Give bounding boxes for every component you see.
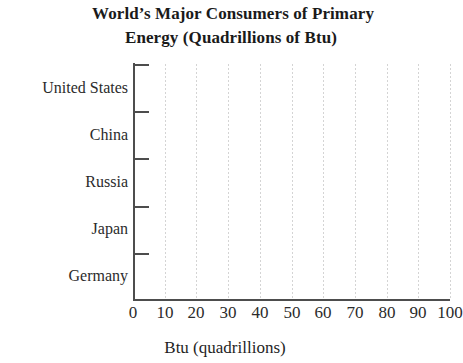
y-axis-label-united-states: United States	[42, 79, 128, 97]
gridline	[418, 64, 419, 300]
x-axis-tick-label-70: 70	[347, 303, 364, 323]
x-axis-tick-label-50: 50	[284, 303, 301, 323]
y-axis-tick	[133, 111, 149, 113]
y-axis-tick	[133, 206, 149, 208]
x-axis-tick-label-10: 10	[157, 303, 174, 323]
gridline	[260, 64, 261, 300]
y-axis-tick	[133, 253, 149, 255]
gridline	[228, 64, 229, 300]
y-axis-label-russia: Russia	[85, 173, 128, 191]
chart-title: World’s Major Consumers of Primary Energ…	[0, 2, 458, 50]
chart-title-line-1: World’s Major Consumers of Primary	[0, 2, 458, 26]
x-axis-tick-label-80: 80	[379, 303, 396, 323]
x-axis-line	[133, 299, 450, 301]
x-axis-tick-label-60: 60	[315, 303, 332, 323]
x-axis-title: Btu (quadrillions)	[0, 337, 458, 359]
gridline	[450, 64, 451, 300]
y-axis-line	[133, 63, 135, 301]
x-axis-tick-label-40: 40	[252, 303, 269, 323]
gridline	[292, 64, 293, 300]
chart-title-line-2: Energy (Quadrillions of Btu)	[0, 26, 458, 50]
y-axis-label-germany: Germany	[68, 267, 128, 285]
gridline	[165, 64, 166, 300]
y-axis-label-japan: Japan	[92, 220, 128, 238]
y-axis-tick	[133, 64, 149, 66]
y-axis-label-china: China	[90, 126, 128, 144]
y-axis-tick	[133, 158, 149, 160]
x-axis-tick-label-100: 100	[437, 303, 463, 323]
x-axis-tick-label-0: 0	[129, 303, 138, 323]
gridline	[323, 64, 324, 300]
gridline	[355, 64, 356, 300]
x-axis-tick-label-20: 20	[188, 303, 205, 323]
x-axis-tick-label-30: 30	[220, 303, 237, 323]
gridline	[196, 64, 197, 300]
x-axis-tick-label-90: 90	[410, 303, 427, 323]
gridline	[387, 64, 388, 300]
